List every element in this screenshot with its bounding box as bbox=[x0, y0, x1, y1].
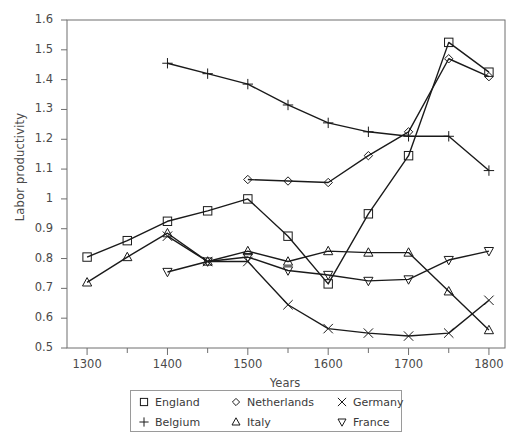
legend-marker-diamond-icon bbox=[229, 396, 243, 408]
legend-entry-france[interactable]: France bbox=[335, 412, 409, 432]
series-netherlands bbox=[244, 55, 494, 187]
y-tick-label: 1.2 bbox=[19, 133, 53, 145]
data-point-marker-cross bbox=[484, 296, 493, 305]
legend-label: England bbox=[155, 396, 200, 409]
y-tick-label: 1.4 bbox=[19, 74, 53, 86]
legend-entry-england[interactable]: England bbox=[137, 392, 229, 412]
data-point-marker-plus bbox=[323, 118, 333, 128]
plot-canvas bbox=[0, 0, 521, 441]
data-point-marker-plus bbox=[243, 79, 253, 89]
data-point-marker-square bbox=[140, 398, 147, 405]
series-italy bbox=[82, 228, 493, 333]
y-tick-label: 0.7 bbox=[19, 282, 53, 294]
series-line bbox=[87, 233, 489, 330]
x-tick-label: 1400 bbox=[142, 359, 192, 371]
x-tick-label: 1500 bbox=[223, 359, 273, 371]
legend-entry-italy[interactable]: Italy bbox=[229, 412, 335, 432]
legend-marker-square-icon bbox=[137, 396, 151, 408]
data-point-marker-cross bbox=[338, 398, 346, 406]
series-england bbox=[83, 38, 493, 288]
y-tick-label: 1 bbox=[19, 193, 53, 205]
data-point-marker-plus bbox=[139, 417, 148, 426]
y-tick-label: 1.6 bbox=[19, 14, 53, 26]
legend-marker-triangle-down-icon bbox=[335, 416, 349, 428]
x-tick-label: 1600 bbox=[303, 359, 353, 371]
data-point-marker-triangle-up bbox=[232, 418, 240, 425]
legend-marker-plus-icon bbox=[137, 416, 151, 428]
data-point-marker-triangle-down bbox=[163, 268, 172, 276]
y-tick-label: 0.8 bbox=[19, 253, 53, 265]
legend-label: Netherlands bbox=[247, 396, 314, 409]
y-tick-label: 0.6 bbox=[19, 312, 53, 324]
series-line bbox=[87, 42, 489, 284]
legend-label: Belgium bbox=[155, 416, 200, 429]
x-axis-label: Years bbox=[60, 376, 510, 390]
data-point-marker-plus bbox=[363, 127, 373, 137]
data-point-marker-plus bbox=[202, 68, 212, 78]
legend-marker-triangle-up-icon bbox=[229, 416, 243, 428]
x-tick-label: 1800 bbox=[464, 359, 514, 371]
legend-label: Italy bbox=[247, 416, 271, 429]
data-point-marker-cross bbox=[283, 300, 292, 309]
y-tick-label: 1.3 bbox=[19, 103, 53, 115]
data-point-marker-square bbox=[83, 253, 91, 261]
series-line bbox=[167, 63, 488, 170]
chart-figure: Labor productivity Years 0.50.60.70.80.9… bbox=[0, 0, 521, 441]
legend-entry-belgium[interactable]: Belgium bbox=[137, 412, 229, 432]
legend-entry-netherlands[interactable]: Netherlands bbox=[229, 392, 335, 412]
series-line bbox=[167, 251, 488, 281]
x-tick-label: 1700 bbox=[384, 359, 434, 371]
legend-marker-cross-icon bbox=[335, 396, 349, 408]
x-tick-label: 1300 bbox=[62, 359, 112, 371]
data-point-marker-plus bbox=[283, 100, 293, 110]
series-line bbox=[248, 59, 489, 183]
data-point-marker-plus bbox=[162, 58, 172, 68]
series-france bbox=[163, 247, 494, 285]
y-tick-label: 0.5 bbox=[19, 342, 53, 354]
chart-legend: EnglandNetherlandsGermanyBelgiumItalyFra… bbox=[130, 390, 402, 432]
data-point-marker-diamond bbox=[232, 398, 239, 405]
series-belgium bbox=[162, 58, 494, 176]
y-tick-label: 1.1 bbox=[19, 163, 53, 175]
legend-entry-germany[interactable]: Germany bbox=[335, 392, 409, 412]
y-tick-label: 0.9 bbox=[19, 223, 53, 235]
legend-label: Germany bbox=[353, 396, 404, 409]
data-point-marker-triangle-down bbox=[338, 419, 346, 426]
legend-label: France bbox=[353, 416, 390, 429]
y-tick-label: 1.5 bbox=[19, 44, 53, 56]
